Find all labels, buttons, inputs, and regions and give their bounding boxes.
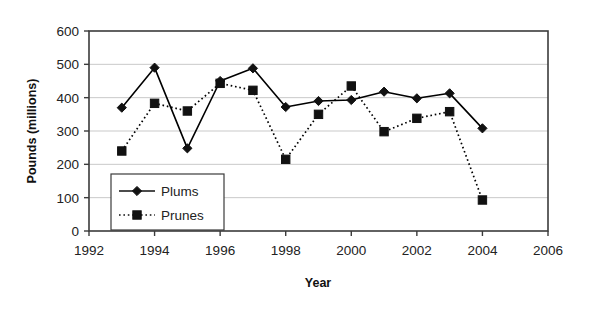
data-point-prunes-2003 [445, 107, 453, 115]
data-point-prunes-1994 [150, 99, 158, 107]
y-tick-label-200: 200 [56, 157, 79, 172]
legend-label-prunes: Prunes [161, 208, 204, 223]
data-point-prunes-1997 [249, 86, 257, 94]
data-point-prunes-2000 [347, 82, 355, 90]
data-point-prunes-2002 [413, 114, 421, 122]
x-tick-label-2004: 2004 [467, 243, 498, 258]
data-point-prunes-2004 [478, 196, 486, 204]
y-tick-label-0: 0 [71, 224, 79, 239]
x-tick-label-1998: 1998 [271, 243, 301, 258]
chart-figure: 0100200300400500600 19921994199619982000… [0, 0, 592, 314]
x-axis-title: Year [305, 276, 332, 290]
x-tick-label-2006: 2006 [533, 243, 563, 258]
x-tick-label-2002: 2002 [402, 243, 432, 258]
x-tick-label-2000: 2000 [336, 243, 366, 258]
y-tick-label-500: 500 [56, 57, 79, 72]
legend-marker-prunes [133, 211, 141, 219]
y-axis-title: Pounds (millions) [25, 79, 39, 184]
x-tick-label-1992: 1992 [74, 243, 104, 258]
line-chart-canvas: 0100200300400500600 19921994199619982000… [0, 0, 592, 314]
data-point-prunes-1996 [216, 79, 224, 87]
y-tick-label-100: 100 [56, 191, 79, 206]
legend-label-plums: Plums [161, 184, 199, 199]
y-tick-label-400: 400 [56, 91, 79, 106]
data-point-prunes-1999 [314, 110, 322, 118]
x-tick-label-1996: 1996 [205, 243, 235, 258]
data-point-prunes-1995 [183, 107, 191, 115]
data-point-prunes-1998 [282, 155, 290, 163]
x-tick-label-1994: 1994 [140, 243, 171, 258]
y-tick-label-300: 300 [56, 124, 79, 139]
y-tick-label-600: 600 [56, 24, 79, 39]
data-point-prunes-2001 [380, 127, 388, 135]
data-point-prunes-1993 [118, 147, 126, 155]
chart-legend: PlumsPrunes [111, 174, 224, 230]
